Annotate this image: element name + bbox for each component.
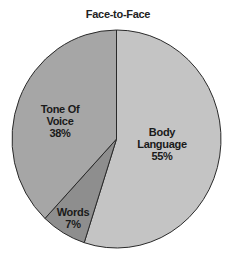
slice-label-words: Words 7% [57, 206, 90, 230]
slice-label-value: 55% [137, 150, 187, 162]
slice-label-text: Tone Of [41, 103, 80, 115]
slice-label-text: Body [137, 126, 187, 138]
slice-label-text: Words [57, 206, 90, 218]
pie-chart [0, 0, 236, 255]
slice-label-value: 7% [57, 218, 90, 230]
slice-label-text: Language [137, 138, 187, 150]
slice-label-tone-of-voice: Tone Of Voice 38% [41, 103, 80, 139]
slice-label-body-language: Body Language 55% [137, 126, 187, 162]
slice-label-value: 38% [41, 127, 80, 139]
slice-label-text: Voice [41, 115, 80, 127]
